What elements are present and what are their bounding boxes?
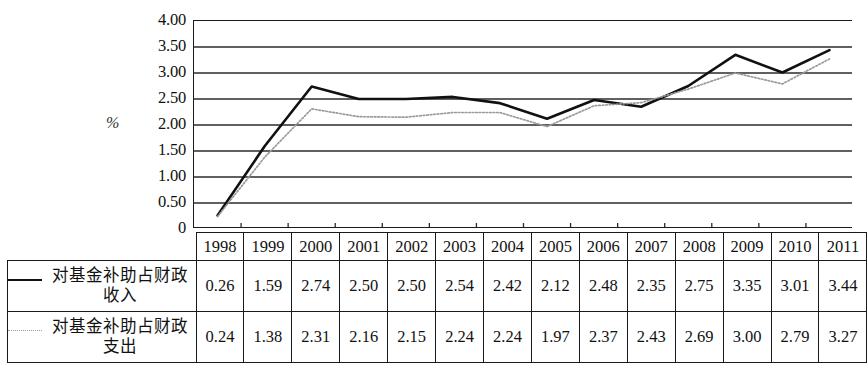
data-value-cell: 2.50	[340, 261, 388, 312]
y-axis-tick: 2.50	[128, 90, 186, 107]
year-header-cell: 2005	[531, 233, 579, 261]
data-value-cell: 2.16	[340, 312, 388, 363]
y-axis-tick: 3.00	[128, 64, 186, 81]
year-header-cell: 2006	[579, 233, 627, 261]
data-value-cell: 2.24	[484, 312, 532, 363]
year-header-cell: 2009	[723, 233, 771, 261]
year-header-row: 1998199920002001200220032004200520062007…	[8, 233, 867, 261]
y-axis-unit-label: %	[106, 115, 119, 131]
data-value-cell: 2.50	[388, 261, 436, 312]
data-value-cell: 3.35	[723, 261, 771, 312]
y-axis-tick: 3.50	[128, 38, 186, 55]
data-value-cell: 2.74	[292, 261, 340, 312]
data-value-cell: 2.31	[292, 312, 340, 363]
data-value-cell: 2.75	[675, 261, 723, 312]
data-value-cell: 3.00	[723, 312, 771, 363]
data-value-cell: 2.69	[675, 312, 723, 363]
y-axis-tick: 1.00	[128, 168, 186, 185]
year-header-cell: 2010	[771, 233, 819, 261]
year-header-cell: 1999	[244, 233, 292, 261]
data-value-cell: 2.12	[531, 261, 579, 312]
data-value-cell: 3.44	[819, 261, 867, 312]
table-row: 对基金补助占财政收入0.261.592.742.502.502.542.422.…	[8, 261, 867, 312]
plot-svg	[194, 21, 852, 228]
data-value-cell: 3.27	[819, 312, 867, 363]
x-axis-ticks	[241, 223, 806, 228]
data-value-cell: 2.48	[579, 261, 627, 312]
y-axis-tick: 0.50	[128, 194, 186, 211]
legend-label-text: 对基金补助占财政收入	[45, 266, 196, 306]
year-header-cell: 1998	[196, 233, 244, 261]
data-value-cell: 2.15	[388, 312, 436, 363]
y-axis-tick: 4.00	[128, 12, 186, 29]
data-value-cell: 1.38	[244, 312, 292, 363]
y-axis-tick-labels: 4.003.503.002.502.001.501.000.500	[128, 0, 186, 232]
data-value-cell: 2.37	[579, 312, 627, 363]
year-header-cell: 2011	[819, 233, 867, 261]
data-value-cell: 1.97	[531, 312, 579, 363]
data-value-cell: 0.24	[196, 312, 244, 363]
y-axis-tick: 2.00	[128, 116, 186, 133]
data-value-cell: 2.24	[436, 312, 484, 363]
data-table: 1998199920002001200220032004200520062007…	[7, 232, 867, 363]
plot-area	[193, 20, 852, 228]
line-chart: % 4.003.503.002.502.001.501.000.500	[0, 0, 852, 232]
data-value-cell: 2.42	[484, 261, 532, 312]
year-header-cell: 2000	[292, 233, 340, 261]
data-value-cell: 3.01	[771, 261, 819, 312]
year-header-cell: 2003	[436, 233, 484, 261]
data-value-cell: 1.59	[244, 261, 292, 312]
solid-line-icon	[8, 279, 42, 281]
year-header-cell: 2004	[484, 233, 532, 261]
dotted-line-icon	[8, 330, 42, 331]
y-axis-tick: 1.50	[128, 142, 186, 159]
series-line-1	[218, 50, 830, 215]
year-header-cell: 2008	[675, 233, 723, 261]
data-value-cell: 2.79	[771, 312, 819, 363]
data-value-cell: 2.35	[627, 261, 675, 312]
legend-label-text: 对基金补助占财政支出	[45, 317, 196, 357]
data-table-wrapper: 1998199920002001200220032004200520062007…	[0, 232, 852, 370]
data-value-cell: 2.54	[436, 261, 484, 312]
table-corner-blank	[8, 233, 197, 261]
year-header-cell: 2002	[388, 233, 436, 261]
gridlines	[194, 47, 852, 203]
data-value-cell: 0.26	[196, 261, 244, 312]
table-row: 对基金补助占财政支出0.241.382.312.162.152.242.241.…	[8, 312, 867, 363]
year-header-cell: 2007	[627, 233, 675, 261]
data-value-cell: 2.43	[627, 312, 675, 363]
legend-label-cell: 对基金补助占财政收入	[8, 261, 197, 312]
legend-label-cell: 对基金补助占财政支出	[8, 312, 197, 363]
year-header-cell: 2001	[340, 233, 388, 261]
series-line-2	[218, 59, 830, 217]
